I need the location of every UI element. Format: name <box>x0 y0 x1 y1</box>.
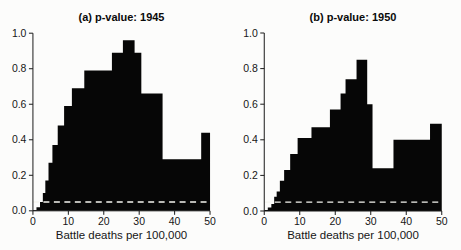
y-tick-label: 0.6 <box>243 98 258 110</box>
y-tick-label: 0.8 <box>243 62 258 74</box>
y-tick-label: 0.2 <box>12 170 27 181</box>
chart-b-svg: 010203040500.00.20.40.60.81.0(b) p-value… <box>231 0 461 250</box>
y-tick-label: 0.4 <box>12 134 27 145</box>
pvalue-step-area <box>33 40 210 211</box>
x-tick-label: 20 <box>98 216 110 227</box>
y-tick-label: 0.2 <box>243 169 258 181</box>
panel-a: 010203040500.00.20.40.60.81.0(a) p-value… <box>0 0 231 250</box>
x-tick-label: 10 <box>63 216 75 227</box>
x-axis-title: Battle deaths per 100,000 <box>56 229 187 241</box>
x-tick-label: 0 <box>30 216 36 227</box>
x-tick-label: 40 <box>169 216 181 227</box>
x-tick-label: 10 <box>293 215 305 227</box>
x-tick-label: 50 <box>204 216 216 227</box>
y-tick-label: 0.6 <box>12 99 27 110</box>
x-axis-title: Battle deaths per 100,000 <box>287 229 419 241</box>
x-tick-label: 50 <box>435 215 447 227</box>
y-tick-label: 0.8 <box>12 63 27 74</box>
chart-a-svg: 010203040500.00.20.40.60.81.0(a) p-value… <box>0 0 230 250</box>
y-tick-label: 0.4 <box>243 133 258 145</box>
x-tick-label: 20 <box>329 215 341 227</box>
panel-b: 010203040500.00.20.40.60.81.0(b) p-value… <box>231 0 461 250</box>
x-tick-label: 30 <box>133 216 145 227</box>
chart-title: (a) p-value: 1945 <box>79 11 165 23</box>
pvalue-figure: 010203040500.00.20.40.60.81.0(a) p-value… <box>0 0 461 250</box>
y-tick-label: 0.0 <box>243 205 258 217</box>
x-tick-label: 40 <box>400 215 412 227</box>
x-tick-label: 0 <box>261 215 267 227</box>
y-tick-label: 1.0 <box>12 28 27 39</box>
chart-title: (b) p-value: 1950 <box>309 11 396 23</box>
x-tick-label: 30 <box>364 215 376 227</box>
y-tick-label: 0.0 <box>12 205 27 216</box>
pvalue-step-area <box>264 60 442 211</box>
y-tick-label: 1.0 <box>243 27 258 39</box>
